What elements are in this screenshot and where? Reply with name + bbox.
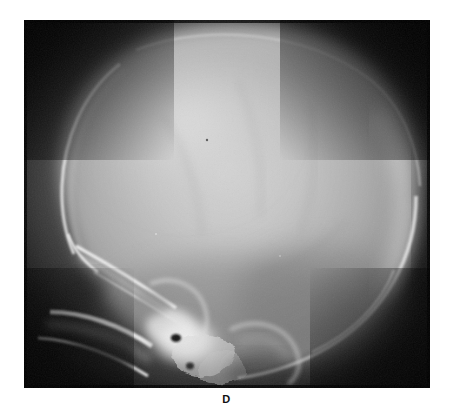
figure-panel: D <box>0 0 453 415</box>
radiograph-image <box>24 20 430 388</box>
film-grain <box>24 20 430 388</box>
panel-label: D <box>0 392 453 406</box>
radiograph-canvas <box>24 20 430 388</box>
